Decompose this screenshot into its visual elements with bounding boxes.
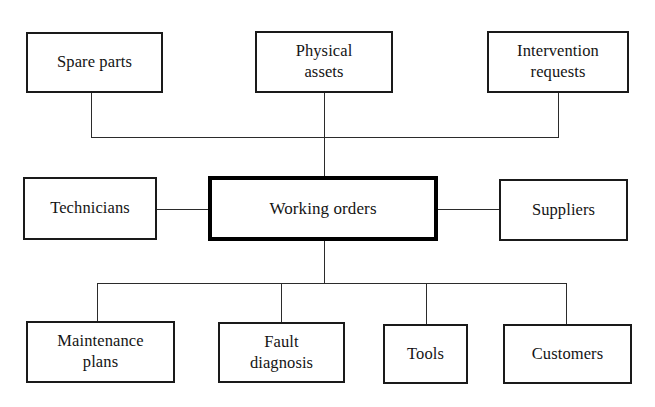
node-spare-parts-label: Spare parts: [53, 52, 136, 73]
connector-spare-parts-drop: [91, 92, 92, 138]
node-customers-label: Customers: [528, 344, 607, 365]
connector-central-to-suppliers: [437, 209, 500, 210]
connector-technicians-to-central: [156, 209, 210, 210]
diagram-canvas: Spare parts Physical assets Intervention…: [0, 0, 655, 407]
node-suppliers-label: Suppliers: [528, 200, 599, 221]
connector-physical-assets-to-central: [324, 92, 325, 178]
node-maintenance-plans[interactable]: Maintenance plans: [26, 321, 175, 383]
node-working-orders-label: Working orders: [265, 198, 380, 219]
connector-top-bus: [91, 137, 559, 138]
node-tools[interactable]: Tools: [383, 324, 468, 384]
connector-customers-drop: [566, 283, 567, 324]
node-physical-assets-label: Physical assets: [292, 41, 357, 82]
node-maintenance-plans-label: Maintenance plans: [53, 331, 147, 372]
node-customers[interactable]: Customers: [503, 324, 632, 384]
connector-intervention-requests-drop: [558, 92, 559, 138]
node-intervention-requests[interactable]: Intervention requests: [487, 31, 629, 93]
connector-bottom-bus: [97, 283, 567, 284]
node-fault-diagnosis-label: Fault diagnosis: [246, 332, 317, 373]
node-physical-assets[interactable]: Physical assets: [255, 31, 393, 93]
node-fault-diagnosis[interactable]: Fault diagnosis: [218, 322, 345, 383]
node-technicians[interactable]: Technicians: [23, 177, 157, 240]
connector-central-to-bottom-bus: [324, 239, 325, 284]
connector-tools-drop: [426, 283, 427, 324]
node-intervention-requests-label: Intervention requests: [513, 41, 603, 82]
connector-maintenance-plans-drop: [97, 283, 98, 322]
node-tools-label: Tools: [403, 344, 448, 365]
node-working-orders[interactable]: Working orders: [208, 176, 438, 241]
node-suppliers[interactable]: Suppliers: [499, 179, 628, 241]
connector-fault-diagnosis-drop: [281, 283, 282, 322]
node-technicians-label: Technicians: [46, 198, 134, 219]
node-spare-parts[interactable]: Spare parts: [26, 32, 163, 93]
